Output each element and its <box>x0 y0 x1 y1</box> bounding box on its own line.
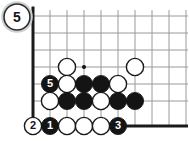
diagram-number-badge-circle <box>4 4 30 30</box>
stone-black[interactable] <box>75 92 92 109</box>
stone-white[interactable] <box>75 117 92 134</box>
go-diagram: 5213 5 <box>0 0 188 141</box>
stone-white[interactable] <box>92 92 109 109</box>
stone-black[interactable] <box>109 117 126 134</box>
stone-black[interactable] <box>126 92 143 109</box>
stone-white[interactable] <box>126 58 143 75</box>
star-points <box>82 65 86 69</box>
stone-black[interactable] <box>41 75 58 92</box>
stone-white[interactable] <box>92 117 109 134</box>
board-grid <box>33 10 188 126</box>
stone-white[interactable] <box>58 58 75 75</box>
stone-white[interactable] <box>41 92 58 109</box>
stone-black[interactable] <box>41 117 58 134</box>
stone-white[interactable] <box>24 117 41 134</box>
stone-white[interactable] <box>58 75 75 92</box>
diagram-number-badge-group <box>2 2 31 31</box>
star-point-4-4 <box>82 65 86 69</box>
stone-black[interactable] <box>75 75 92 92</box>
stone-black[interactable] <box>92 75 109 92</box>
stone-white[interactable] <box>58 117 75 134</box>
stone-black[interactable] <box>58 92 75 109</box>
stone-white[interactable] <box>109 75 126 92</box>
board-edges <box>32 8 189 128</box>
stone-black[interactable] <box>109 92 126 109</box>
go-board[interactable] <box>0 0 188 141</box>
